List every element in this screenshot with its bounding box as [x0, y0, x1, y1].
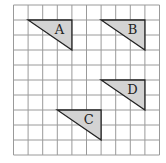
triangle-label: A — [54, 22, 65, 37]
triangle-label: C — [84, 112, 94, 127]
triangle-label: D — [127, 82, 137, 97]
grid-diagram: ABDC — [0, 0, 166, 163]
triangle-label: B — [128, 22, 138, 37]
